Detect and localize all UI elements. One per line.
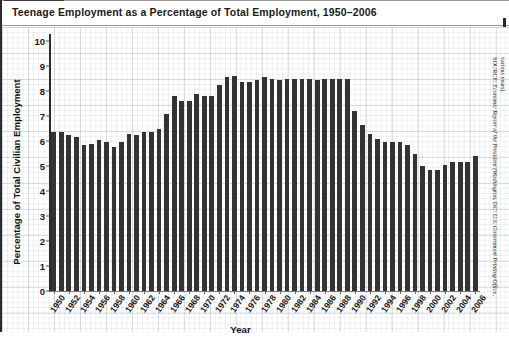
bar [59, 132, 64, 291]
bar [232, 76, 237, 291]
bar [465, 162, 470, 291]
page-title: Teenage Employment as a Percentage of To… [12, 6, 377, 18]
bar [119, 142, 124, 291]
y-tick-label: 10 [29, 36, 45, 47]
x-tick-label: 1968 [183, 293, 202, 314]
bar [337, 79, 342, 292]
y-tick-mark [46, 191, 50, 192]
x-tick-label: 1992 [364, 293, 383, 314]
bar [322, 79, 327, 292]
x-tick-mark [355, 291, 356, 294]
x-tick-mark [265, 291, 266, 294]
x-tick-label: 1984 [304, 293, 323, 314]
bar [292, 79, 297, 292]
y-tick-mark [46, 116, 50, 117]
bar [51, 132, 56, 291]
bar [383, 142, 388, 291]
x-tick-mark [280, 291, 281, 294]
x-tick-mark [84, 291, 85, 294]
x-tick-mark [475, 291, 476, 294]
x-tick-label: 1952 [63, 293, 82, 314]
bar [240, 82, 245, 291]
plot-area: 012345678910 195019521954195619581960196… [50, 41, 479, 291]
source-note-line2: various years). [500, 57, 506, 93]
x-tick-mark [400, 291, 401, 294]
x-tick-label: 1978 [259, 293, 278, 314]
bar [368, 134, 373, 292]
y-axis-title-wrap: Percentage of Total Civilian Employment [12, 67, 28, 277]
source-note-line1: SOURCE: Economic Report of the President… [492, 57, 498, 296]
x-tick-mark [204, 291, 205, 294]
bar [277, 80, 282, 291]
bar [74, 137, 79, 291]
x-tick-mark [54, 291, 55, 294]
x-tick-label: 1964 [153, 293, 172, 314]
x-tick-label: 2000 [424, 293, 443, 314]
x-tick-label: 1986 [319, 293, 338, 314]
bar [345, 79, 350, 292]
bar [330, 79, 335, 292]
x-tick-mark [144, 291, 145, 294]
bar [262, 77, 267, 291]
y-tick-label: 7 [29, 111, 45, 122]
x-tick-mark [385, 291, 386, 294]
bar [255, 80, 260, 291]
y-tick-label: 8 [29, 86, 45, 97]
x-tick-label: 1956 [93, 293, 112, 314]
x-tick-mark [370, 291, 371, 294]
chart-title-bar: Teenage Employment as a Percentage of To… [2, 0, 509, 26]
bar [360, 125, 365, 291]
bar [66, 135, 71, 291]
y-tick-label: 5 [29, 161, 45, 172]
bar [352, 111, 357, 291]
x-tick-mark [69, 291, 70, 294]
y-tick-mark [46, 266, 50, 267]
y-tick-label: 2 [29, 236, 45, 247]
x-tick-label: 2006 [469, 293, 488, 314]
x-tick-mark [114, 291, 115, 294]
y-tick-mark [46, 91, 50, 92]
y-tick-label: 4 [29, 186, 45, 197]
x-tick-label: 1958 [108, 293, 127, 314]
source-note: SOURCE: Economic Report of the President… [489, 57, 509, 337]
bar [82, 145, 87, 291]
bar [89, 144, 94, 292]
bar [104, 142, 109, 291]
source-note-citation: Economic Report of the President (Washin… [492, 84, 498, 295]
x-tick-mark [415, 291, 416, 294]
x-tick-mark [129, 291, 130, 294]
x-tick-mark [460, 291, 461, 294]
bar [194, 94, 199, 292]
bar [398, 142, 403, 291]
x-tick-label: 2004 [454, 293, 473, 314]
x-tick-mark [325, 291, 326, 294]
bar [390, 142, 395, 291]
bar [428, 170, 433, 291]
bar [172, 96, 177, 291]
y-tick-mark [46, 141, 50, 142]
bar [300, 79, 305, 292]
x-tick-label: 1954 [78, 293, 97, 314]
bar [112, 147, 117, 291]
x-axis-title: Year [2, 324, 479, 335]
y-tick-label: 1 [29, 261, 45, 272]
x-tick-mark [249, 291, 250, 294]
bar [134, 135, 139, 291]
bar [142, 132, 147, 291]
y-axis-title: Percentage of Total Civilian Employment [11, 67, 22, 277]
x-tick-label: 1998 [409, 293, 428, 314]
x-tick-label: 1994 [379, 293, 398, 314]
x-tick-mark [310, 291, 311, 294]
bar [187, 101, 192, 291]
x-tick-mark [445, 291, 446, 294]
title-tab-marker [4, 0, 64, 1]
y-tick-label: 6 [29, 136, 45, 147]
bar [225, 77, 230, 291]
x-tick-label: 1996 [394, 293, 413, 314]
y-tick-mark [46, 291, 50, 292]
x-tick-label: 1950 [48, 293, 67, 314]
x-tick-label: 2002 [439, 293, 458, 314]
x-tick-mark [219, 291, 220, 294]
x-tick-mark [430, 291, 431, 294]
